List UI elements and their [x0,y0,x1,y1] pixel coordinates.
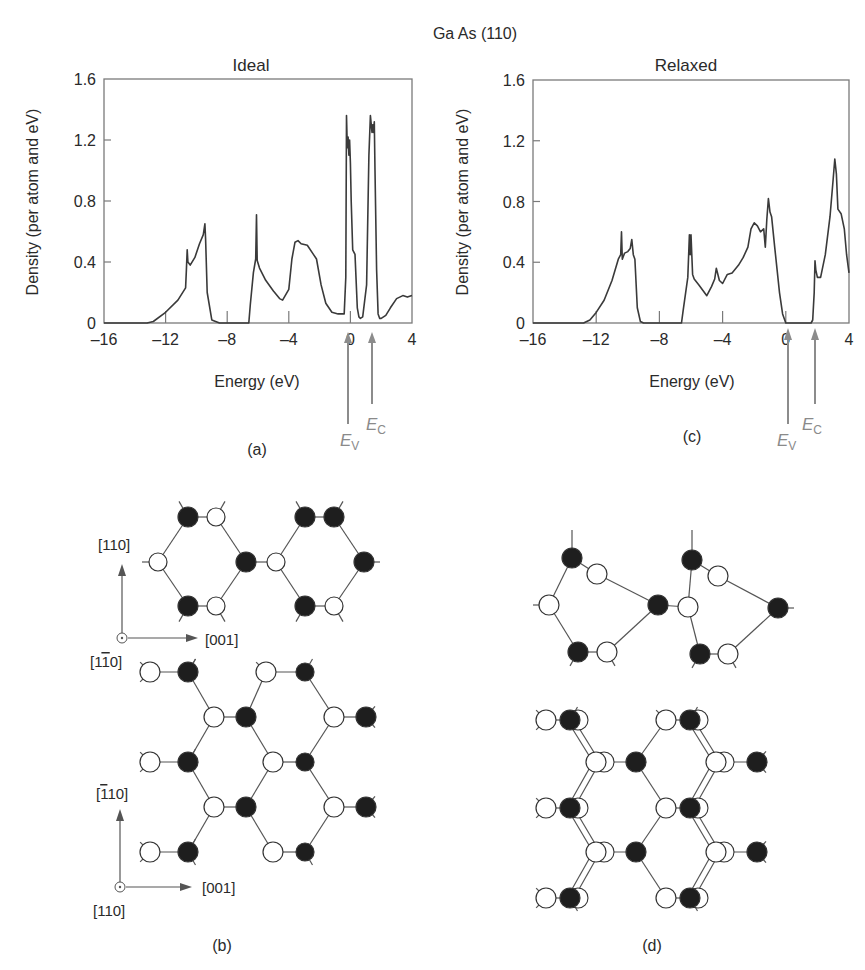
atom-filled [178,507,198,527]
atom-filled [560,710,580,730]
y-tick-label: 1.6 [503,72,525,89]
lattice-diagram-relaxed: (d) [533,530,794,954]
x-axis-label: Energy (eV) [649,373,734,390]
axis-label-001: [001] [202,879,235,896]
figure-canvas: Ga As (110) Ideal 00.40.81.21.6 –16–12–8… [0,0,865,970]
y-tick-label: 0 [87,315,96,332]
x-tick-label: –8 [218,331,236,348]
atom-open [656,710,676,730]
axis-label-110: [110] [93,902,125,919]
atom-open [597,642,617,662]
axis-label-1-10: [110] [90,653,122,670]
atom-filled [560,798,580,818]
ev-label: EV [777,431,796,453]
atom-open [267,553,285,571]
y-axis-ticks: 00.40.81.21.6 [503,72,540,332]
atom-filled [296,753,314,771]
panel-label-a: (a) [247,441,267,458]
ec-arrow [368,332,376,404]
dos-curve-ideal [104,116,412,323]
atom-filled [690,644,710,664]
atom-filled [568,642,588,662]
y-tick-label: 0 [516,315,525,332]
atom-filled [295,507,315,527]
y-tick-label: 0.8 [503,194,525,211]
plot-frame [533,80,849,323]
y-tick-label: 0.4 [74,254,96,271]
x-tick-label: –12 [152,331,179,348]
atom-filled [354,552,374,572]
atom-filled [680,798,700,818]
atom-filled [296,663,314,681]
x-tick-label: 4 [408,331,417,348]
atom-filled [680,710,700,730]
x-tick-label: –4 [280,331,298,348]
atom-filled [236,797,256,817]
x-axis-label: Energy (eV) [214,373,299,390]
y-axis-ticks: 00.40.81.21.6 [74,71,111,332]
atom-open [325,597,343,615]
y-tick-label: 1.2 [503,133,525,150]
atom-filled [236,552,256,572]
x-tick-label: –8 [651,331,669,348]
panel-label-c: (c) [683,428,702,445]
atom-filled [747,842,767,862]
atom-open [678,597,698,617]
atom-open [656,888,676,908]
x-tick-label: –4 [714,331,732,348]
x-axis-ticks: –16–12–8–404 [520,311,854,348]
ev-label: EV [340,431,359,453]
atom-open [140,752,160,772]
y-tick-label: 0.8 [74,193,96,210]
atom-open [207,597,225,615]
atom-filled [324,507,344,527]
atom-filled [178,596,198,616]
atom-open [263,842,283,862]
x-tick-label: –16 [91,331,118,348]
atom-open [204,707,224,727]
atom-filled [682,550,702,570]
x-tick-label: –16 [520,331,547,348]
chart-title-relaxed: Relaxed [655,56,717,75]
atom-open [149,553,167,571]
atom-filled [560,888,580,908]
axis-label-bar1-10: [110] [96,785,128,802]
atom-filled [178,842,198,862]
atom-open [256,662,276,682]
atom-open [207,508,225,526]
atom-open [656,798,676,818]
lattice-diagram-ideal: [110] [001] [110] [110] [001] [110] (b) [90,501,380,954]
axis-label-001: [001] [205,631,238,648]
x-tick-label: 4 [845,331,854,348]
atom-filled [648,595,668,615]
atom-filled [356,707,376,727]
x-axis-ticks: –16–12–8–404 [91,311,417,348]
y-tick-label: 1.2 [74,132,96,149]
atom-filled [236,707,256,727]
figure-title: Ga As (110) [433,25,517,42]
dos-curve-relaxed [533,159,849,323]
ec-label: EC [366,415,386,437]
atom-open [706,752,726,772]
atom-open [140,662,160,682]
atom-filled [178,662,198,682]
atom-open [708,566,728,586]
atom-open [586,752,606,772]
ec-arrow [811,328,819,404]
atom-open [324,707,344,727]
atom-filled [296,843,314,861]
y-axis-label: Density (per atom and eV) [24,109,41,296]
atom-open [536,888,556,908]
ec-label: EC [802,415,822,437]
atom-open [539,595,559,615]
y-tick-label: 0.4 [503,254,525,271]
panel-label-b: (b) [212,937,232,954]
atom-filled [626,752,646,772]
atom-filled [680,888,700,908]
dos-chart-ideal: Ideal 00.40.81.21.6 –16–12–8–404 Density… [24,56,417,458]
atom-filled [356,797,376,817]
atom-open [718,644,738,664]
atom-open [586,842,606,862]
atom-filled [562,548,582,568]
chart-title-ideal: Ideal [233,56,270,75]
